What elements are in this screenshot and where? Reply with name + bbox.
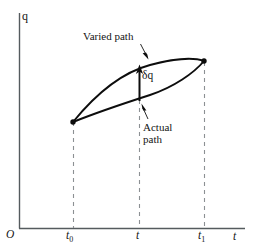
axes-group: [19, 13, 245, 229]
endpoint-start-dot: [70, 119, 75, 124]
varied-path-annotation: Varied path: [83, 31, 133, 43]
actual-path-leader-group: [141, 104, 148, 120]
actual-path-annotation-line2: path: [143, 133, 162, 145]
x-axis-label: t: [233, 230, 236, 242]
delta-q-annotation: δq: [142, 69, 153, 81]
actual-path-annotation-line1: Actual: [143, 121, 172, 133]
origin-label: O: [6, 228, 14, 240]
variational-path-figure: q O t t0 t t1 Varied path δq Actualpath: [0, 0, 253, 247]
tick-label-t0-subscript: 0: [69, 235, 73, 244]
varied-path-leader-group: [141, 44, 149, 60]
tick-label-t1-subscript: 1: [201, 235, 205, 244]
tick-label-t1: t1: [198, 229, 205, 245]
y-axis-label: q: [22, 10, 28, 23]
actual-path-annotation: Actualpath: [143, 122, 172, 145]
tick-label-t0: t0: [66, 229, 73, 245]
varied-path-leader-arrow: [143, 53, 149, 60]
tick-label-t-base: t: [136, 229, 139, 241]
tick-label-t: t: [136, 229, 139, 241]
endpoint-end-dot: [201, 58, 206, 63]
actual-path-leader-arrow: [141, 104, 146, 111]
